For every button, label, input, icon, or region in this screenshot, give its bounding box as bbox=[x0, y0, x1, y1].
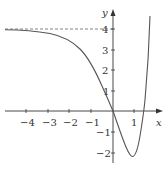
y-tick-label: 1 bbox=[103, 86, 109, 97]
x-tick-label: 1 bbox=[131, 117, 137, 128]
y-tick-label: −2 bbox=[96, 148, 111, 159]
x-tick-label: −3 bbox=[42, 117, 57, 128]
y-tick-label: −1 bbox=[96, 127, 111, 138]
y-tick-label: 3 bbox=[102, 45, 108, 56]
chart: y x −4 −3 −2 −1 1 4 3 2 1 −1 −2 bbox=[0, 0, 165, 169]
y-tick-label: 4 bbox=[102, 24, 108, 35]
x-axis-arrow-icon bbox=[156, 109, 163, 114]
y-axis-arrow-icon bbox=[111, 9, 116, 16]
function-curve bbox=[5, 16, 150, 157]
y-axis-label: y bbox=[101, 7, 108, 18]
x-tick-label: −2 bbox=[63, 117, 78, 128]
x-axis-label: x bbox=[156, 117, 162, 128]
y-tick-label: 2 bbox=[102, 65, 108, 76]
x-tick-label: −4 bbox=[20, 117, 35, 128]
